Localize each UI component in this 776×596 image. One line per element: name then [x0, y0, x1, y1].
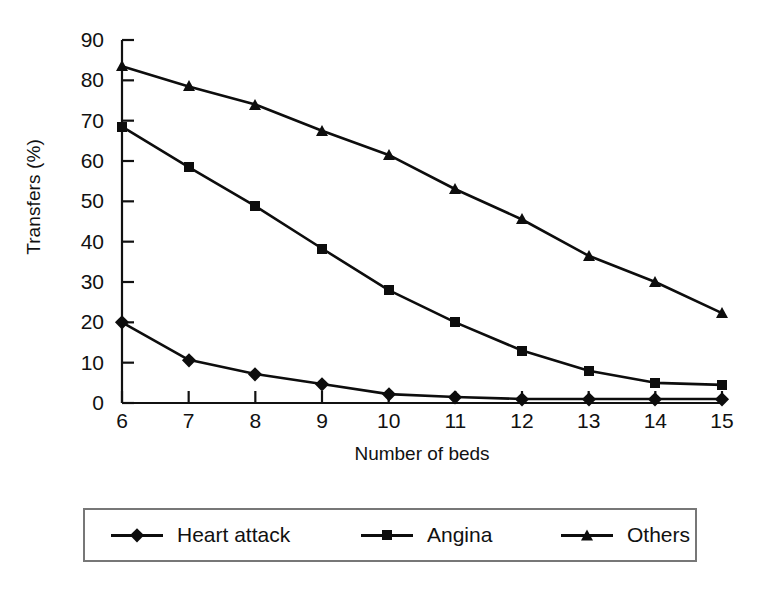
- data-point-others: [383, 149, 395, 160]
- data-point-heart-attack: [649, 392, 662, 405]
- data-point-others: [516, 213, 528, 224]
- data-point-heart-attack: [249, 367, 262, 380]
- triangle-marker-icon: [561, 526, 613, 544]
- data-point-others: [249, 98, 261, 109]
- data-point-heart-attack: [515, 392, 528, 405]
- x-tick-label: 8: [232, 410, 278, 431]
- x-tick-label: 13: [566, 410, 612, 431]
- legend-item-angina[interactable]: Angina: [361, 523, 561, 547]
- chart-figure: Transfers (%) 9080706050403020100 678910…: [0, 0, 776, 596]
- data-point-others: [449, 183, 461, 194]
- legend-item-heart-attack[interactable]: Heart attack: [111, 523, 361, 547]
- data-point-heart-attack: [182, 353, 195, 366]
- x-tick-label: 9: [299, 410, 345, 431]
- data-point-others: [649, 276, 661, 287]
- data-point-heart-attack: [582, 392, 595, 405]
- data-point-others: [583, 250, 595, 261]
- legend-label: Others: [627, 523, 690, 547]
- data-point-heart-attack: [715, 392, 728, 405]
- data-point-others: [716, 307, 728, 318]
- x-tick-label: 11: [432, 410, 478, 431]
- data-point-heart-attack: [382, 387, 395, 400]
- data-point-angina: [317, 244, 327, 254]
- x-tick-label: 7: [166, 410, 212, 431]
- data-point-heart-attack: [115, 316, 128, 329]
- data-point-angina: [117, 122, 127, 132]
- data-point-others: [116, 60, 128, 71]
- data-point-markers: [0, 0, 776, 480]
- x-tick-label: 12: [499, 410, 545, 431]
- data-point-others: [183, 80, 195, 91]
- data-point-angina: [450, 317, 460, 327]
- plot-area: Transfers (%) 9080706050403020100 678910…: [0, 0, 776, 480]
- square-marker-icon: [361, 526, 413, 544]
- chart-legend: Heart attackAnginaOthers: [83, 508, 697, 562]
- data-point-angina: [650, 378, 660, 388]
- x-tick-label: 14: [632, 410, 678, 431]
- data-point-others: [316, 125, 328, 136]
- legend-item-others[interactable]: Others: [561, 523, 690, 547]
- data-point-angina: [384, 285, 394, 295]
- x-tick-label: 6: [99, 410, 145, 431]
- x-tick-label: 10: [366, 410, 412, 431]
- x-tick-label: 15: [699, 410, 745, 431]
- data-point-heart-attack: [315, 377, 328, 390]
- legend-item-list: Heart attackAnginaOthers: [85, 510, 695, 560]
- data-point-angina: [184, 162, 194, 172]
- data-point-heart-attack: [449, 390, 462, 403]
- data-point-angina: [250, 201, 260, 211]
- data-point-angina: [584, 366, 594, 376]
- legend-label: Angina: [427, 523, 492, 547]
- diamond-marker-icon: [111, 526, 163, 544]
- data-point-angina: [717, 380, 727, 390]
- x-axis-title: Number of beds: [122, 443, 722, 465]
- data-point-angina: [517, 346, 527, 356]
- legend-label: Heart attack: [177, 523, 290, 547]
